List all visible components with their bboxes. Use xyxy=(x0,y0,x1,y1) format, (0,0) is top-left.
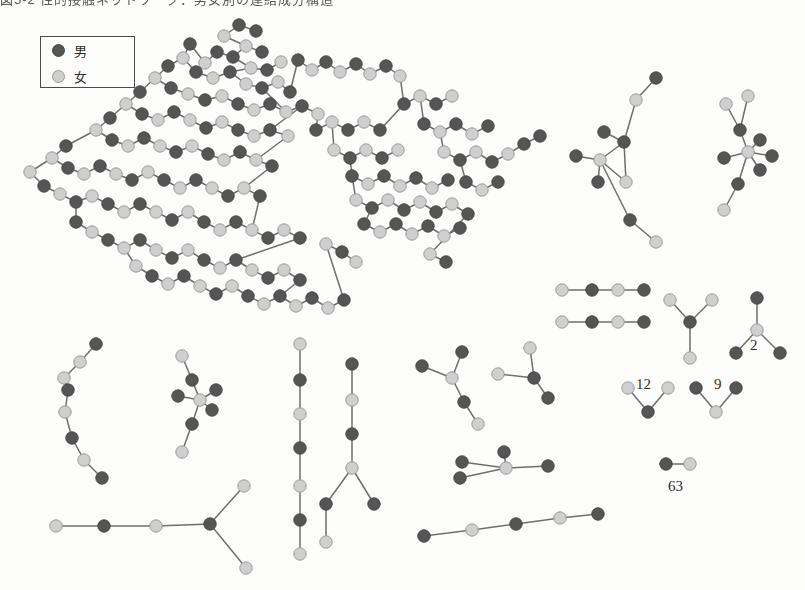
node-male[interactable] xyxy=(320,498,332,510)
node-female[interactable] xyxy=(446,372,458,384)
node-male[interactable] xyxy=(190,66,202,78)
node-female[interactable] xyxy=(524,342,536,354)
node-male[interactable] xyxy=(454,222,466,234)
node-female[interactable] xyxy=(446,198,458,210)
node-male[interactable] xyxy=(94,160,106,172)
node-female[interactable] xyxy=(120,98,132,110)
node-male[interactable] xyxy=(358,218,370,230)
node-male[interactable] xyxy=(158,174,170,186)
node-male[interactable] xyxy=(638,316,650,328)
node-female[interactable] xyxy=(612,284,624,296)
node-female[interactable] xyxy=(240,562,252,574)
node-male[interactable] xyxy=(254,190,266,202)
node-male[interactable] xyxy=(410,172,422,184)
node-female[interactable] xyxy=(154,140,166,152)
node-female[interactable] xyxy=(86,226,98,238)
node-female[interactable] xyxy=(278,224,290,236)
node-male[interactable] xyxy=(528,372,540,384)
node-female[interactable] xyxy=(424,248,436,260)
node-female[interactable] xyxy=(394,70,406,82)
node-female[interactable] xyxy=(152,114,164,126)
node-male[interactable] xyxy=(592,176,604,188)
node-male[interactable] xyxy=(256,46,268,58)
node-male[interactable] xyxy=(62,162,74,174)
node-male[interactable] xyxy=(598,126,610,138)
node-female[interactable] xyxy=(374,226,386,238)
node-female[interactable] xyxy=(382,194,394,206)
node-male[interactable] xyxy=(162,60,174,72)
node-male[interactable] xyxy=(38,180,50,192)
node-male[interactable] xyxy=(224,66,236,78)
node-female[interactable] xyxy=(246,224,258,236)
node-female[interactable] xyxy=(78,168,90,180)
node-female[interactable] xyxy=(238,480,250,492)
node-male[interactable] xyxy=(222,190,234,202)
node-female[interactable] xyxy=(414,196,426,208)
node-male[interactable] xyxy=(233,19,245,31)
node-female[interactable] xyxy=(290,300,302,312)
node-female[interactable] xyxy=(176,446,188,458)
node-female[interactable] xyxy=(275,56,287,68)
node-female[interactable] xyxy=(684,352,696,364)
node-male[interactable] xyxy=(510,518,522,530)
node-female[interactable] xyxy=(312,108,324,120)
node-female[interactable] xyxy=(150,206,162,218)
node-male[interactable] xyxy=(730,347,742,359)
node-male[interactable] xyxy=(734,124,746,136)
node-male[interactable] xyxy=(256,82,268,94)
node-male[interactable] xyxy=(730,382,742,394)
node-male[interactable] xyxy=(190,174,202,186)
node-female[interactable] xyxy=(322,302,334,314)
node-female[interactable] xyxy=(142,166,154,178)
node-female[interactable] xyxy=(472,418,484,430)
node-male[interactable] xyxy=(102,234,114,246)
node-female[interactable] xyxy=(554,512,566,524)
node-male[interactable] xyxy=(570,150,582,162)
node-male[interactable] xyxy=(492,176,504,188)
node-male[interactable] xyxy=(230,216,242,228)
node-female[interactable] xyxy=(54,188,66,200)
node-female[interactable] xyxy=(149,72,161,84)
node-female[interactable] xyxy=(186,140,198,152)
node-female[interactable] xyxy=(346,462,358,474)
node-male[interactable] xyxy=(62,384,74,396)
node-female[interactable] xyxy=(630,94,642,106)
node-female[interactable] xyxy=(684,458,696,470)
node-female[interactable] xyxy=(664,294,676,306)
node-male[interactable] xyxy=(774,347,786,359)
node-female[interactable] xyxy=(177,52,189,64)
node-male[interactable] xyxy=(690,382,702,394)
node-female[interactable] xyxy=(438,146,450,158)
node-female[interactable] xyxy=(492,368,504,380)
node-male[interactable] xyxy=(134,234,146,246)
node-male[interactable] xyxy=(754,164,766,176)
node-male[interactable] xyxy=(250,25,262,37)
node-female[interactable] xyxy=(426,182,438,194)
node-female[interactable] xyxy=(476,184,488,196)
node-female[interactable] xyxy=(206,182,218,194)
node-female[interactable] xyxy=(110,168,122,180)
node-female[interactable] xyxy=(438,230,450,242)
node-male[interactable] xyxy=(454,154,466,166)
node-male[interactable] xyxy=(126,174,138,186)
node-male[interactable] xyxy=(146,270,158,282)
node-female[interactable] xyxy=(706,294,718,306)
node-female[interactable] xyxy=(162,278,174,290)
node-female[interactable] xyxy=(245,62,257,74)
node-female[interactable] xyxy=(502,148,514,160)
node-male[interactable] xyxy=(376,152,388,164)
node-male[interactable] xyxy=(184,38,196,50)
node-male[interactable] xyxy=(398,204,410,216)
node-female[interactable] xyxy=(622,382,634,394)
node-female[interactable] xyxy=(194,280,206,292)
node-male[interactable] xyxy=(624,214,636,226)
node-female[interactable] xyxy=(320,238,332,250)
node-male[interactable] xyxy=(460,176,472,188)
node-male[interactable] xyxy=(186,374,198,386)
node-male[interactable] xyxy=(320,56,332,68)
node-male[interactable] xyxy=(398,98,410,110)
node-male[interactable] xyxy=(266,160,278,172)
node-male[interactable] xyxy=(454,472,466,484)
node-male[interactable] xyxy=(306,292,318,304)
node-male[interactable] xyxy=(98,520,110,532)
